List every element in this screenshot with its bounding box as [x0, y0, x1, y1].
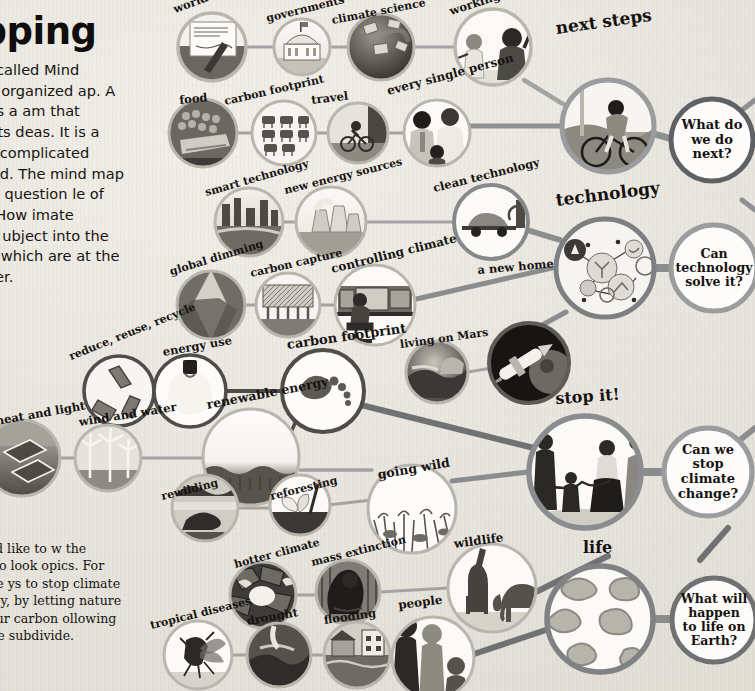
node-art-tropical-diseases [164, 621, 232, 691]
node-art-smart-technology [215, 188, 283, 256]
node-art-mass-extinction [316, 560, 380, 624]
question-next-steps-text: What dowe donext? [671, 99, 753, 181]
node-art-next-steps [562, 72, 654, 172]
node-art-reforesting [270, 475, 330, 536]
node-art-carbon-footprint-2 [252, 101, 316, 165]
node-art-every-single-person [404, 100, 470, 174]
node-art-flooding [324, 622, 390, 688]
page-title: mapping [0, 13, 138, 50]
node-art-energy-use [154, 355, 226, 427]
node-art-global-dimming [177, 270, 245, 340]
node-art-life [547, 566, 653, 672]
node-art-drought [247, 623, 311, 687]
section2-paragraph: that you would like to w the colored lin… [0, 540, 130, 644]
node-art-going-wild [368, 465, 456, 553]
question-stop-it-text: Can westopclimatechange? [664, 428, 752, 516]
node-art-clean-technology [454, 185, 528, 259]
question-technology[interactable]: Cantechnologysolve it? [671, 225, 755, 311]
node-art-hotter-climate [230, 562, 296, 628]
question-life-text: What willhappento life onEarth? [672, 578, 755, 662]
node-art-people [389, 615, 474, 691]
node-art-climate-science [348, 14, 414, 80]
node-art-governments [274, 19, 330, 75]
node-art-a-new-home [481, 323, 573, 403]
intro-paragraph: his book is called Mind ecause it is org… [0, 60, 132, 288]
question-stop-it[interactable]: Can westopclimatechange? [664, 428, 752, 516]
node-art-living-on-mars [406, 341, 468, 403]
node-art-working-together [455, 9, 531, 88]
node-art-carbon-footprint [282, 350, 364, 432]
question-next-steps[interactable]: What dowe donext? [671, 99, 753, 181]
node-art-reduce-reuse [84, 356, 154, 426]
node-art-technology [556, 219, 654, 317]
node-art-new-energy-sources [296, 187, 366, 257]
question-life[interactable]: What willhappento life onEarth? [672, 578, 755, 662]
section2-heading: es [0, 520, 124, 539]
node-art-rewilding [172, 475, 238, 542]
node-art-wildlife [448, 544, 542, 632]
node-art-wind-and-water [75, 425, 141, 491]
question-technology-text: Cantechnologysolve it? [671, 225, 755, 311]
node-art-world-agreements [178, 13, 246, 81]
node-art-stop-it [529, 416, 652, 528]
node-art-travel [328, 103, 388, 163]
node-art-controlling-climate [335, 265, 416, 345]
node-art-heat-and-light [0, 420, 60, 496]
node-art-food [169, 99, 237, 170]
node-art-carbon-capture [256, 273, 320, 341]
